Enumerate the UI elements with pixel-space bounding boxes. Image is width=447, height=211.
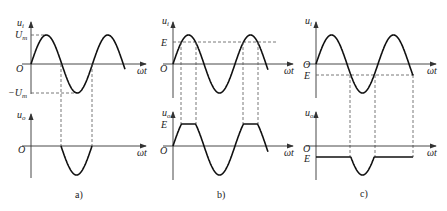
panel-b-output-origin-label: O — [160, 145, 167, 156]
panel-b-input-label: ui — [162, 15, 169, 28]
panel-a-neg-um-label: −Um — [8, 87, 27, 100]
panel-c-output-label: uo — [305, 107, 314, 120]
panel-b-output-x-label: ωt — [284, 147, 294, 158]
panel-b-output-wave — [173, 124, 268, 175]
panel-c-output-e-label: E — [303, 153, 310, 164]
panel-c-output-x-label: ωt — [427, 147, 437, 158]
panel-a-output-origin-label: O — [18, 144, 25, 155]
panel-c-output-wave — [316, 157, 413, 175]
panel-c-e-label: E — [303, 70, 310, 81]
panel-a-output-x-label: ωt — [137, 147, 147, 158]
panel-a-output-wave — [61, 146, 92, 175]
panel-b-caption: b) — [217, 189, 225, 201]
panel-b-output-e-label: E — [160, 119, 167, 130]
panel-b: ui O ωt E uo E O ωt b) — [160, 15, 294, 201]
panel-a-origin-label: O — [16, 63, 23, 74]
panel-c-caption: c) — [360, 188, 368, 200]
panel-a: ui O ωt Um −Um uo O ωt a) — [8, 17, 147, 201]
panel-c-input-x-label: ωt — [427, 65, 437, 76]
panel-c: ui O ωt E uo O E ωt c) — [303, 15, 437, 200]
panel-c-input-label: ui — [305, 15, 312, 28]
panel-b-origin-label: O — [160, 63, 167, 74]
panel-b-e-label: E — [160, 37, 167, 48]
clipper-waveform-diagram: ui O ωt Um −Um uo O ωt a) ui O ωt E uo — [0, 0, 447, 211]
panel-b-input-x-label: ωt — [284, 65, 294, 76]
panel-a-caption: a) — [75, 189, 83, 201]
panel-a-um-label: Um — [15, 29, 27, 42]
panel-c-origin-label: O — [303, 59, 310, 70]
panel-a-input-x-label: ωt — [137, 65, 147, 76]
panel-a-output-label: uo — [17, 109, 26, 122]
